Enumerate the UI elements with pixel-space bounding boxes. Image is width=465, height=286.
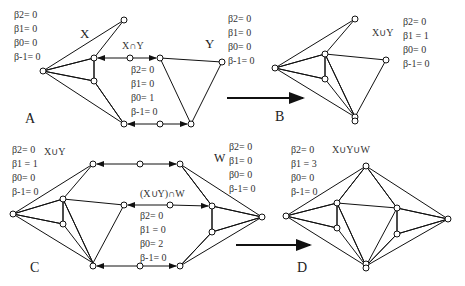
svg-text:β1 = 3: β1 = 3 (291, 158, 317, 169)
simplicial-complex-diagram: X Y X∩Y A β2= 0 β1= 0 β0= 0 β-1= 0 β2= 0… (0, 0, 465, 286)
panel-c: X∪Y W (X∪Y)∩W C β2= 0 β1 = 1 β0= 0 β-1= … (10, 141, 265, 275)
svg-text:β-1= 0: β-1= 0 (228, 55, 255, 66)
panel-label-b: B (275, 109, 284, 124)
svg-text:β2= 0: β2= 0 (228, 13, 251, 24)
vertex (219, 59, 225, 65)
vertex (91, 78, 97, 84)
vertex (121, 121, 127, 127)
svg-text:β2= 0: β2= 0 (229, 141, 252, 152)
svg-text:β-1= 0: β-1= 0 (131, 106, 158, 117)
svg-text:β1= 0: β1= 0 (228, 27, 251, 38)
vertex (188, 121, 194, 127)
svg-text:β0= 0: β0= 0 (12, 172, 35, 183)
betti-c-intersection: β2= 0 β1 = 0 β0= 2 β-1= 0 (140, 210, 167, 263)
svg-text:β2= 0: β2= 0 (12, 144, 35, 155)
svg-text:β1 = 0: β1 = 0 (140, 224, 166, 235)
panel-a: X Y X∩Y A β2= 0 β1= 0 β0= 0 β-1= 0 β2= 0… (14, 9, 255, 127)
svg-text:β1= 0: β1= 0 (14, 23, 37, 34)
svg-text:β0= 0: β0= 0 (229, 169, 252, 180)
svg-text:β2= 0: β2= 0 (131, 64, 154, 75)
label-x-union-y: X∪Y (372, 27, 393, 38)
svg-text:β0= 0: β0= 0 (228, 41, 251, 52)
svg-text:β1 = 1: β1 = 1 (403, 30, 429, 41)
label-x-union-y-c: X∪Y (44, 146, 65, 157)
label-x-union-y-union-w: X∪Y∪W (332, 144, 370, 155)
panel-label-a: A (25, 111, 36, 126)
vertex (40, 68, 46, 74)
svg-text:β-1= 0: β-1= 0 (140, 252, 167, 263)
svg-text:β0= 1: β0= 1 (131, 92, 154, 103)
svg-text:β1 = 1: β1 = 1 (12, 158, 38, 169)
vertex (121, 17, 127, 23)
svg-text:β-1= 0: β-1= 0 (229, 183, 256, 194)
panel-label-d: D (297, 260, 307, 275)
svg-text:β0= 0: β0= 0 (291, 172, 314, 183)
vertex (91, 55, 97, 61)
betti-b: β2= 0 β1 = 1 β0= 0 β-1= 0 (403, 16, 430, 69)
svg-text:β2= 0: β2= 0 (14, 9, 37, 20)
svg-text:β2= 0: β2= 0 (403, 16, 426, 27)
label-y: Y (205, 36, 215, 51)
panel-label-c: C (30, 260, 39, 275)
label-w: W (214, 151, 226, 165)
svg-text:β-1= 0: β-1= 0 (291, 186, 318, 197)
svg-text:β-1= 0: β-1= 0 (403, 58, 430, 69)
label-x: X (80, 26, 90, 41)
svg-text:β-1= 0: β-1= 0 (12, 186, 39, 197)
vertex (157, 55, 163, 61)
complex-y (157, 55, 225, 127)
svg-text:β0= 2: β0= 2 (140, 238, 163, 249)
svg-text:β1= 0: β1= 0 (229, 155, 252, 166)
betti-d: β2= 0 β1 = 3 β0= 0 β-1= 0 (291, 144, 318, 197)
betti-x: β2= 0 β1= 0 β0= 0 β-1= 0 (14, 9, 41, 62)
betti-c-union: β2= 0 β1 = 1 β0= 0 β-1= 0 (12, 144, 39, 197)
panel-d: X∪Y∪W D β2= 0 β1 = 3 β0= 0 β-1= 0 (283, 144, 451, 275)
label-x-intersect-y: X∩Y (122, 40, 144, 51)
svg-text:β0= 0: β0= 0 (14, 37, 37, 48)
betti-intersection: β2= 0 β1= 0 β0= 1 β-1= 0 (131, 64, 158, 117)
svg-text:β2= 0: β2= 0 (140, 210, 163, 221)
panel-b: X∪Y B β2= 0 β1 = 1 β0= 0 β-1= 0 (272, 16, 430, 124)
svg-text:β0= 0: β0= 0 (403, 44, 426, 55)
svg-text:β1= 0: β1= 0 (131, 78, 154, 89)
svg-text:β-1= 0: β-1= 0 (14, 51, 41, 62)
betti-y: β2= 0 β1= 0 β0= 0 β-1= 0 (228, 13, 255, 66)
svg-text:β2= 0: β2= 0 (291, 144, 314, 155)
betti-w: β2= 0 β1= 0 β0= 0 β-1= 0 (229, 141, 256, 194)
label-union-intersect-w: (X∪Y)∩W (140, 188, 185, 200)
